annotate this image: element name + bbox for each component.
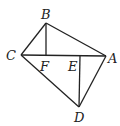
- label-e: E: [67, 59, 78, 74]
- label-d: D: [73, 110, 85, 125]
- label-b: B: [40, 7, 51, 22]
- segment-ca: [21, 55, 106, 56]
- geometry-diagram: B C A F E D: [0, 0, 120, 126]
- segment-bc: [21, 23, 46, 55]
- label-c: C: [6, 48, 16, 63]
- label-a: A: [107, 51, 117, 66]
- label-f: F: [39, 59, 50, 74]
- segment-ed: [79, 56, 80, 107]
- segment-ba: [46, 23, 106, 56]
- segment-ad: [79, 56, 106, 107]
